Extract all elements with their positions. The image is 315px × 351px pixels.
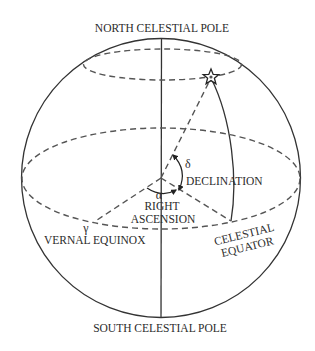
south-pole-label: SOUTH CELESTIAL POLE bbox=[93, 322, 227, 334]
right-ascension-label-line1: RIGHT bbox=[144, 200, 179, 212]
right-ascension-label-line2: ASCENSION bbox=[131, 213, 196, 225]
hour-circle-arc bbox=[211, 78, 234, 221]
vernal-equinox-symbol: γ bbox=[82, 221, 89, 235]
star-icon bbox=[203, 69, 219, 84]
declination-label: DECLINATION bbox=[186, 175, 263, 187]
vernal-equinox-label: VERNAL EQUINOX bbox=[44, 234, 146, 246]
declination-symbol: δ bbox=[185, 157, 191, 171]
north-pole-label: NORTH CELESTIAL POLE bbox=[95, 22, 229, 34]
declination-angle-arc bbox=[173, 155, 182, 190]
celestial-sphere-diagram: NORTH CELESTIAL POLE SOUTH CELESTIAL POL… bbox=[0, 0, 315, 351]
